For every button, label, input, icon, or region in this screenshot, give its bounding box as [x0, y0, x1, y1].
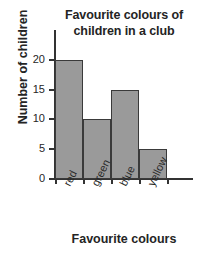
y-axis-title: Number of children: [16, 0, 30, 142]
bar-chart-figure: Favourite colours of children in a club …: [0, 0, 208, 256]
y-tick-label-5: 5: [5, 143, 45, 154]
x-tick-mark-end: [167, 180, 169, 184]
x-tick-mark-yellow: [139, 180, 141, 184]
x-tick-mark-green: [83, 180, 85, 184]
chart-title-line-1: Favourite colours of: [48, 7, 200, 23]
bar-series: [55, 30, 168, 179]
x-tick-mark-red: [55, 180, 57, 184]
x-axis-title: Favourite colours: [48, 232, 200, 246]
x-tick-mark-blue: [111, 180, 113, 184]
y-tick-label-0: 0: [5, 173, 45, 184]
bar-red: [55, 60, 83, 179]
